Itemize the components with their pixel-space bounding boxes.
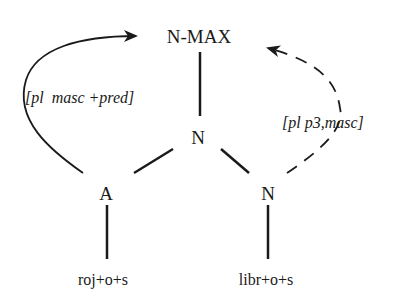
edge-n-a xyxy=(134,149,173,173)
feature-label-left: [pl masc +pred] xyxy=(25,89,134,107)
node-a: A xyxy=(99,183,113,204)
node-n-mid: N xyxy=(191,127,205,148)
leaf-roj-o-s: roj+o+s xyxy=(78,271,128,289)
node-n-max: N-MAX xyxy=(167,26,232,47)
leaf-libr-o-s: libr+o+s xyxy=(239,271,294,288)
edge-n-nright xyxy=(221,149,249,173)
agreement-arc-dashed xyxy=(268,48,341,173)
node-n-right: N xyxy=(261,183,275,204)
agreement-tree-diagram: N-MAX N A N roj+o+s libr+o+s [pl masc +p… xyxy=(0,0,409,301)
feature-label-right: [pl p3,masc] xyxy=(282,114,364,132)
